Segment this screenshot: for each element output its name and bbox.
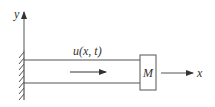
mass-block: M bbox=[140, 55, 156, 90]
y-axis: y bbox=[13, 7, 24, 50]
wall-hatching-icon bbox=[19, 52, 24, 100]
x-axis-label: x bbox=[196, 66, 203, 80]
x-axis: x bbox=[161, 66, 203, 80]
displacement-label: u(x, t) bbox=[73, 44, 102, 58]
y-axis-label: y bbox=[13, 7, 20, 21]
diagram-canvas: y u(x, t) M x bbox=[0, 0, 215, 107]
mass-label: M bbox=[142, 66, 154, 80]
fixed-wall bbox=[19, 50, 24, 100]
